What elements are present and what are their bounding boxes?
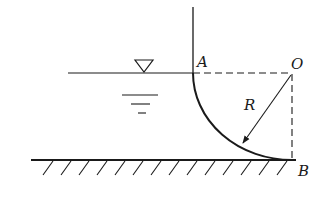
curved-gate-arc: [193, 73, 292, 160]
water-level-triangle-icon: [135, 60, 153, 72]
label-R: R: [243, 96, 255, 114]
curved-gate-diagram: A O R B: [0, 0, 324, 210]
label-A: A: [195, 53, 208, 71]
label-O: O: [291, 55, 303, 73]
ground-hatching: [43, 161, 287, 175]
label-B: B: [297, 162, 309, 180]
